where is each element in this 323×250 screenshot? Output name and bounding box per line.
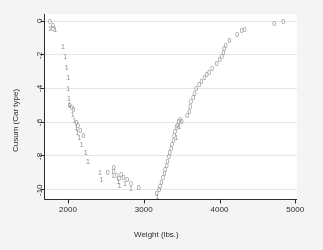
data-point-marker: 1 bbox=[123, 180, 127, 187]
y-tick-label: -8 bbox=[36, 153, 44, 160]
data-point-marker: 1 bbox=[61, 43, 65, 50]
data-point-marker: 0 bbox=[281, 18, 285, 25]
y-tick-label: 0 bbox=[36, 18, 44, 22]
x-tick-label: 3000 bbox=[135, 206, 153, 214]
data-point-marker: 1 bbox=[118, 182, 122, 189]
data-point-marker: 0 bbox=[106, 169, 110, 176]
data-point-marker: 0 bbox=[81, 132, 85, 139]
data-point-marker: 1 bbox=[84, 149, 88, 156]
data-point-marker: 0 bbox=[210, 65, 214, 72]
data-point-marker: 1 bbox=[53, 26, 57, 33]
data-point-marker: 1 bbox=[68, 101, 72, 108]
data-point-marker: 1 bbox=[100, 176, 104, 183]
data-point-marker: 1 bbox=[66, 74, 70, 81]
y-tick-label: -2 bbox=[36, 52, 44, 59]
data-point-marker: 1 bbox=[175, 134, 179, 141]
x-axis-label: Weight (lbs.) bbox=[134, 231, 179, 239]
y-tick-label: -4 bbox=[36, 85, 44, 92]
data-point-marker: 0 bbox=[243, 26, 247, 33]
data-point-marker: 1 bbox=[48, 25, 52, 32]
data-point-marker: 1 bbox=[66, 85, 70, 92]
cusum-scatter-figure: Cusum (Car type) Weight (lbs.) 0-2-4-6-8… bbox=[0, 0, 323, 250]
x-tick-label: 2000 bbox=[59, 206, 77, 214]
data-point-marker: 1 bbox=[156, 193, 160, 200]
x-tick-label: 5000 bbox=[286, 206, 304, 214]
data-point-marker: 1 bbox=[63, 53, 67, 60]
data-point-marker: 0 bbox=[235, 31, 239, 38]
data-point-marker: 1 bbox=[98, 169, 102, 176]
x-tick-label: 4000 bbox=[211, 206, 229, 214]
y-tick-label: -6 bbox=[36, 119, 44, 126]
data-point-marker: 1 bbox=[86, 158, 90, 165]
data-point-marker: 0 bbox=[137, 184, 141, 191]
data-point-marker: 1 bbox=[178, 123, 182, 130]
data-point-marker: 1 bbox=[111, 172, 115, 179]
y-axis-label: Cusum (Car type) bbox=[12, 89, 20, 152]
data-point-marker: 0 bbox=[228, 37, 232, 44]
data-point-marker: 0 bbox=[272, 20, 276, 27]
plot-canvas bbox=[0, 0, 323, 250]
data-point-marker: 1 bbox=[129, 185, 133, 192]
data-point-marker: 1 bbox=[80, 141, 84, 148]
data-point-marker: 1 bbox=[65, 64, 69, 71]
y-tick-label: -10 bbox=[36, 184, 44, 196]
